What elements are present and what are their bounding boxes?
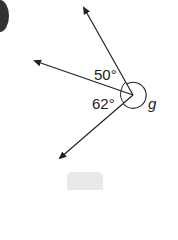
angle-label-62: 62°: [92, 96, 115, 111]
answer-input-box[interactable]: [67, 172, 103, 190]
angle-label-g: g: [148, 96, 156, 111]
ray-left: [35, 61, 133, 95]
angle-arc-g: [124, 82, 147, 108]
angle-label-50: 50°: [94, 67, 117, 82]
angle-arc-50: [121, 82, 126, 91]
angle-arc-62: [121, 91, 124, 103]
